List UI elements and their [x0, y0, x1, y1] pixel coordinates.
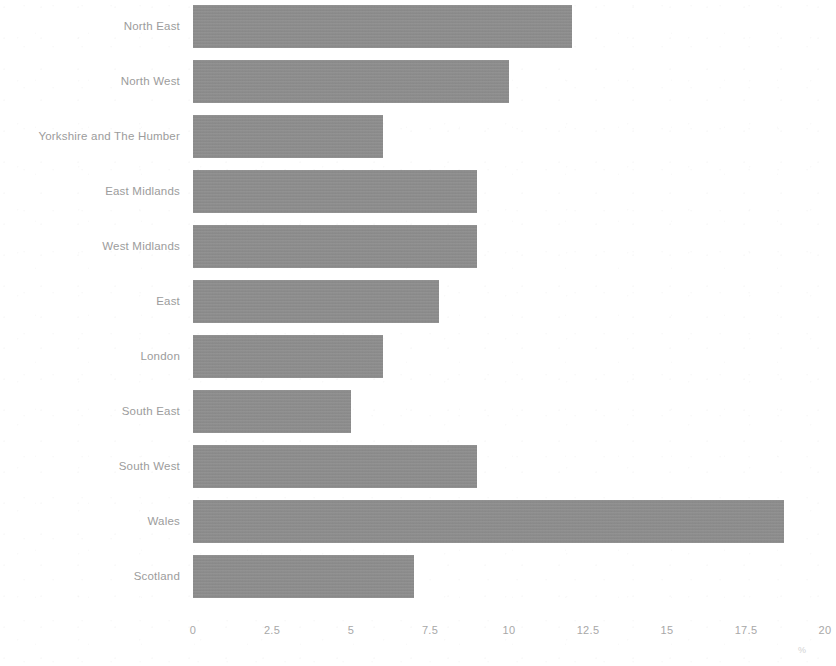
x-tick-label: 7.5 — [400, 624, 460, 636]
axis-unit-mark: % — [798, 645, 806, 655]
bar — [193, 225, 477, 268]
bar-row: Wales — [0, 500, 824, 543]
x-tick-label: 17.5 — [716, 624, 776, 636]
bar — [193, 170, 477, 213]
bar-row: East Midlands — [0, 170, 824, 213]
bar-row: East — [0, 280, 824, 323]
x-tick-label: 0 — [163, 624, 223, 636]
category-label: South East — [122, 390, 180, 433]
bar-row: London — [0, 335, 824, 378]
category-label: West Midlands — [102, 225, 180, 268]
bar-row: West Midlands — [0, 225, 824, 268]
bar — [193, 5, 572, 48]
x-tick-label: 2.5 — [242, 624, 302, 636]
x-tick-label: 15 — [637, 624, 697, 636]
bar-row: North West — [0, 60, 824, 103]
x-axis: 02.557.51012.51517.520 — [0, 624, 824, 646]
category-label: Yorkshire and The Humber — [38, 115, 180, 158]
category-label: East Midlands — [105, 170, 180, 213]
x-tick-label: 12.5 — [558, 624, 618, 636]
category-label: Wales — [147, 500, 180, 543]
category-label: London — [140, 335, 180, 378]
bar-row: South West — [0, 445, 824, 488]
bar — [193, 445, 477, 488]
bar-row: Yorkshire and The Humber — [0, 115, 824, 158]
bar — [193, 115, 383, 158]
x-tick-label: 20 — [795, 624, 836, 636]
x-tick-label: 5 — [321, 624, 381, 636]
bar-row: South East — [0, 390, 824, 433]
bar-row: Scotland — [0, 555, 824, 598]
category-label: South West — [119, 445, 180, 488]
bar — [193, 500, 784, 543]
bar-row: North East — [0, 5, 824, 48]
category-label: North West — [121, 60, 180, 103]
category-label: Scotland — [134, 555, 180, 598]
category-label: North East — [124, 5, 180, 48]
bar — [193, 60, 509, 103]
bar — [193, 390, 351, 433]
bar — [193, 335, 383, 378]
category-label: East — [156, 280, 180, 323]
x-tick-label: 10 — [479, 624, 539, 636]
bar — [193, 555, 414, 598]
bar — [193, 280, 439, 323]
